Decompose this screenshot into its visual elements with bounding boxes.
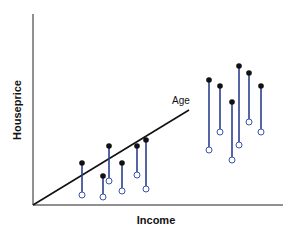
predicted-point — [134, 172, 140, 178]
observed-point — [79, 160, 85, 166]
predicted-point — [246, 119, 252, 125]
observed-point — [100, 173, 106, 179]
predicted-point — [229, 157, 235, 163]
predicted-point — [79, 192, 85, 198]
y-axis-label: Houseprice — [11, 80, 23, 140]
data-pair — [106, 143, 112, 184]
predicted-point — [106, 178, 112, 184]
observed-point — [246, 70, 252, 76]
data-pair — [217, 83, 223, 135]
data-pair — [258, 83, 264, 135]
x-axis-label: Income — [137, 214, 176, 226]
observed-point — [229, 99, 235, 105]
data-pair — [229, 99, 235, 163]
observed-point — [106, 143, 112, 149]
predicted-point — [206, 147, 212, 153]
scatter-diagram: Age Income Houseprice — [0, 0, 299, 233]
data-pair — [246, 70, 252, 125]
predicted-point — [236, 142, 242, 148]
observed-point — [119, 160, 125, 166]
observed-point — [134, 143, 140, 149]
data-pair — [134, 143, 140, 178]
observed-point — [143, 137, 149, 143]
data-pair — [236, 63, 242, 148]
data-pair — [79, 160, 85, 198]
observed-point — [236, 63, 242, 69]
observed-point — [217, 83, 223, 89]
predicted-point — [143, 186, 149, 192]
predicted-point — [100, 194, 106, 200]
data-pair — [100, 173, 106, 200]
predicted-point — [119, 188, 125, 194]
predicted-point — [258, 129, 264, 135]
predicted-point — [217, 129, 223, 135]
data-pair — [119, 160, 125, 194]
observed-point — [206, 77, 212, 83]
data-pair — [143, 137, 149, 192]
residual-pairs — [79, 63, 264, 200]
trend-line-label: Age — [172, 95, 190, 106]
observed-point — [258, 83, 264, 89]
data-pair — [206, 77, 212, 153]
age-trend-line — [33, 110, 189, 205]
